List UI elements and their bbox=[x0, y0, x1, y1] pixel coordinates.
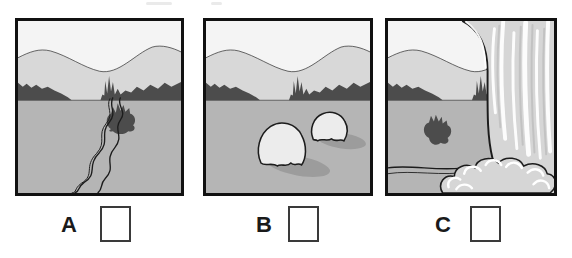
answer-box-c[interactable] bbox=[470, 206, 501, 242]
scene-river-illustration bbox=[18, 21, 181, 193]
answer-box-b[interactable] bbox=[288, 206, 319, 242]
scene-waterfall-illustration bbox=[388, 21, 554, 193]
scene-boulders-illustration bbox=[206, 21, 370, 193]
cropped-text-remnant bbox=[211, 2, 222, 5]
cropped-text-remnant bbox=[146, 2, 172, 5]
panel-label-a: A bbox=[61, 210, 77, 240]
boulder-small bbox=[312, 112, 347, 141]
panel-label-b: B bbox=[256, 210, 272, 240]
panel-label-c: C bbox=[435, 210, 451, 240]
panel-b bbox=[203, 18, 373, 196]
answer-box-a[interactable] bbox=[100, 206, 131, 242]
panel-a bbox=[15, 18, 184, 196]
worksheet-question: A B C bbox=[0, 0, 572, 258]
panel-c bbox=[385, 18, 557, 196]
